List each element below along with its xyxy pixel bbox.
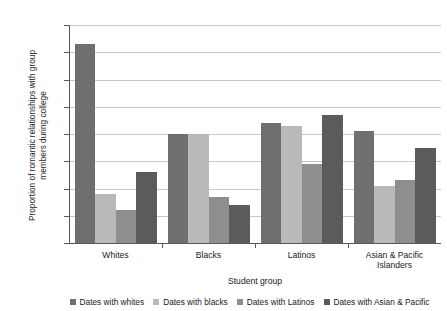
legend-item[interactable]: Dates with blacks bbox=[153, 298, 228, 307]
bar bbox=[75, 44, 96, 243]
x-axis-separator bbox=[348, 243, 349, 248]
plot-area bbox=[69, 25, 441, 243]
gridline bbox=[69, 80, 441, 81]
legend-swatch-icon bbox=[324, 299, 330, 305]
bar bbox=[354, 131, 375, 243]
bar bbox=[136, 172, 157, 243]
legend-label: Dates with Asian & Pacific bbox=[334, 298, 430, 307]
x-axis-separator bbox=[255, 243, 256, 248]
legend-swatch-icon bbox=[70, 299, 76, 305]
bar bbox=[95, 194, 116, 243]
bar bbox=[116, 210, 137, 243]
y-axis-title: Proportion of romantic relationships wit… bbox=[27, 21, 48, 251]
x-group-label: Latinos bbox=[255, 250, 348, 260]
bar bbox=[188, 134, 209, 243]
legend-label: Dates with whites bbox=[80, 298, 145, 307]
bar bbox=[322, 115, 343, 243]
gridline bbox=[69, 107, 441, 108]
x-axis-separator bbox=[162, 243, 163, 248]
legend-swatch-icon bbox=[153, 299, 159, 305]
legend-item[interactable]: Dates with Asian & Pacific bbox=[324, 298, 430, 307]
bar bbox=[302, 164, 323, 243]
bar bbox=[374, 186, 395, 243]
legend-item[interactable]: Dates with Latinos bbox=[237, 298, 315, 307]
chart-legend: Dates with whitesDates with blacksDates … bbox=[0, 295, 447, 309]
bar bbox=[395, 180, 416, 243]
legend-item[interactable]: Dates with whites bbox=[70, 298, 145, 307]
y-axis-line bbox=[69, 25, 70, 244]
x-group-label: Whites bbox=[69, 250, 162, 260]
gridline bbox=[69, 134, 441, 135]
x-group-label: Asian & Pacific Islanders bbox=[348, 250, 441, 270]
gridline bbox=[69, 161, 441, 162]
gridline bbox=[69, 52, 441, 53]
bar bbox=[209, 197, 230, 243]
bar bbox=[229, 205, 250, 243]
bar-chart: Proportion of romantic relationships wit… bbox=[0, 0, 447, 311]
bar bbox=[281, 126, 302, 243]
legend-label: Dates with Latinos bbox=[247, 298, 315, 307]
bar bbox=[168, 134, 189, 243]
legend-swatch-icon bbox=[237, 299, 243, 305]
x-group-label: Blacks bbox=[162, 250, 255, 260]
bar bbox=[261, 123, 282, 243]
gridline bbox=[69, 25, 441, 26]
legend-label: Dates with blacks bbox=[163, 298, 228, 307]
bar bbox=[415, 148, 436, 243]
x-axis-title: Student group bbox=[69, 276, 441, 286]
